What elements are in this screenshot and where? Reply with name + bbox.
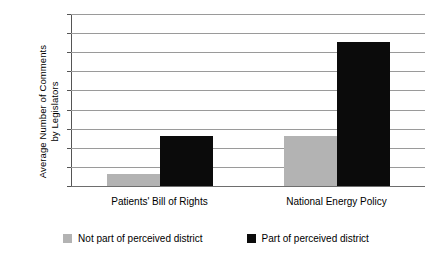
y-axis-tick	[67, 186, 71, 187]
legend-item-not-part[interactable]: Not part of perceived district	[63, 233, 203, 244]
y-axis-tick	[67, 14, 71, 15]
y-axis-title-line-2: by Legislators	[48, 12, 60, 212]
legend-swatch-icon	[247, 234, 256, 243]
gridline	[71, 33, 425, 34]
y-axis-tick	[67, 148, 71, 149]
bar-part-1	[337, 42, 390, 186]
x-axis-label: Patients' Bill of Rights	[60, 196, 260, 208]
y-axis-title-line-1: Average Number of Comments	[37, 12, 49, 212]
bar-not-part-0	[107, 174, 160, 186]
y-axis-tick	[67, 33, 71, 34]
y-axis-tick	[67, 110, 71, 111]
x-axis-label: National Energy Policy	[237, 196, 432, 208]
y-axis-title: Average Number of Comments by Legislator…	[37, 12, 60, 212]
legend: Not part of perceived districtPart of pe…	[0, 233, 432, 244]
y-axis-line	[71, 14, 72, 187]
legend-label: Not part of perceived district	[78, 233, 203, 244]
bar-chart: Average Number of Comments by Legislator…	[0, 0, 432, 254]
y-axis-tick	[67, 90, 71, 91]
gridline	[71, 186, 425, 187]
legend-label: Part of perceived district	[262, 233, 369, 244]
y-axis-tick	[67, 129, 71, 130]
bar-not-part-1	[284, 136, 337, 186]
y-axis-tick	[67, 167, 71, 168]
bar-part-0	[160, 136, 213, 186]
legend-item-part[interactable]: Part of perceived district	[247, 233, 369, 244]
plot-area: 0123456789	[71, 14, 425, 186]
gridline	[71, 14, 425, 15]
y-axis-tick	[67, 52, 71, 53]
y-axis-tick	[67, 71, 71, 72]
legend-swatch-icon	[63, 234, 72, 243]
